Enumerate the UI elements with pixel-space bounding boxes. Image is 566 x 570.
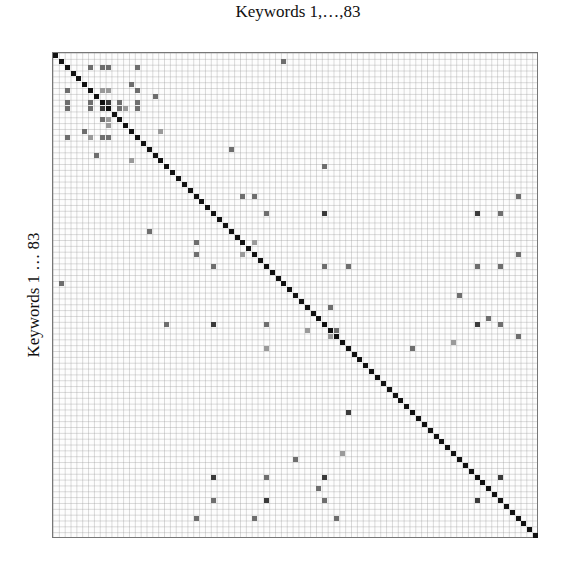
diagonal-cell xyxy=(346,346,351,351)
matrix-cell xyxy=(322,475,327,480)
matrix-cell xyxy=(211,264,216,269)
diagonal-cell xyxy=(475,475,480,480)
diagonal-cell xyxy=(527,527,532,532)
matrix-cell xyxy=(229,147,234,152)
matrix-cell xyxy=(117,106,122,111)
matrix-cell xyxy=(82,129,87,134)
matrix-cell xyxy=(475,211,480,216)
diagonal-cell xyxy=(428,428,433,433)
matrix-cell xyxy=(240,194,245,199)
matrix-cell xyxy=(264,322,269,327)
matrix-cell xyxy=(100,65,105,70)
matrix-cell xyxy=(135,100,140,105)
matrix-cell xyxy=(65,106,70,111)
matrix-cell xyxy=(264,346,269,351)
diagonal-cell xyxy=(422,422,427,427)
diagonal-cell xyxy=(369,369,374,374)
diagonal-cell xyxy=(205,205,210,210)
diagonal-cell xyxy=(328,328,333,333)
matrix-cell xyxy=(65,135,70,140)
diagonal-cell xyxy=(404,404,409,409)
diagonal-cell xyxy=(375,375,380,380)
matrix-cell xyxy=(475,498,480,503)
diagonal-cell xyxy=(299,299,304,304)
matrix-cell xyxy=(240,252,245,257)
diagonal-cell xyxy=(293,293,298,298)
diagonal-cell xyxy=(340,340,345,345)
matrix-cell xyxy=(106,65,111,70)
matrix-cell xyxy=(211,498,216,503)
keyword-cooccurrence-matrix xyxy=(52,52,538,538)
matrix-cell xyxy=(164,322,169,327)
matrix-cell xyxy=(194,240,199,245)
matrix-cell xyxy=(88,106,93,111)
diagonal-cell xyxy=(176,176,181,181)
diagonal-cell xyxy=(65,65,70,70)
matrix-cell xyxy=(129,82,134,87)
diagonal-cell xyxy=(106,106,111,111)
matrix-cell xyxy=(100,88,105,93)
diagonal-cell xyxy=(270,270,275,275)
matrix-cell xyxy=(498,322,503,327)
matrix-cell xyxy=(264,475,269,480)
diagonal-cell xyxy=(311,311,316,316)
diagonal-cell xyxy=(153,153,158,158)
diagonal-cell xyxy=(387,387,392,392)
diagonal-cell xyxy=(480,480,485,485)
matrix-cell xyxy=(334,516,339,521)
diagonal-cell xyxy=(451,451,456,456)
matrix-cell xyxy=(94,153,99,158)
diagonal-cell xyxy=(182,182,187,187)
diagonal-cell xyxy=(246,246,251,251)
diagonal-cell xyxy=(445,445,450,450)
diagonal-cell xyxy=(188,188,193,193)
diagonal-cell xyxy=(123,123,128,128)
matrix-cell xyxy=(322,498,327,503)
matrix-cell xyxy=(106,100,111,105)
diagonal-cell xyxy=(316,316,321,321)
matrix-cell xyxy=(59,281,64,286)
diagonal-cell xyxy=(510,510,515,515)
matrix-cell xyxy=(346,264,351,269)
diagonal-cell xyxy=(322,322,327,327)
diagonal-cell xyxy=(486,486,491,491)
diagonal-cell xyxy=(439,439,444,444)
matrix-cell xyxy=(498,264,503,269)
diagonal-cell xyxy=(76,76,81,81)
matrix-cell xyxy=(211,475,216,480)
matrix-cell xyxy=(475,322,480,327)
diagonal-cell xyxy=(498,498,503,503)
matrix-cell xyxy=(322,211,327,216)
diagonal-cell xyxy=(416,416,421,421)
matrix-cell xyxy=(88,65,93,70)
matrix-cell xyxy=(281,59,286,64)
diagonal-cell xyxy=(457,457,462,462)
diagonal-cell xyxy=(147,147,152,152)
diagonal-cell xyxy=(264,264,269,269)
matrix-cell xyxy=(158,129,163,134)
matrix-cell xyxy=(322,264,327,269)
diagonal-cell xyxy=(88,88,93,93)
diagonal-cell xyxy=(71,71,76,76)
diagonal-cell xyxy=(469,469,474,474)
matrix-cell xyxy=(65,88,70,93)
matrix-cell xyxy=(475,264,480,269)
diagonal-cell xyxy=(53,53,58,58)
matrix-cell xyxy=(100,135,105,140)
matrix-cell xyxy=(106,123,111,128)
matrix-cell xyxy=(65,100,70,105)
diagonal-cell xyxy=(94,94,99,99)
matrix-cell xyxy=(252,516,257,521)
matrix-cell xyxy=(346,410,351,415)
matrix-cell xyxy=(100,106,105,111)
diagonal-cell xyxy=(398,398,403,403)
chart-title: Keywords 1,…,83 xyxy=(0,2,566,22)
matrix-cell xyxy=(410,346,415,351)
matrix-cell xyxy=(252,194,257,199)
diagonal-cell xyxy=(117,117,122,122)
matrix-cell xyxy=(252,240,257,245)
diagonal-cell xyxy=(258,258,263,263)
diagonal-cell xyxy=(170,170,175,175)
matrix-cell xyxy=(153,94,158,99)
matrix-cell xyxy=(340,451,345,456)
